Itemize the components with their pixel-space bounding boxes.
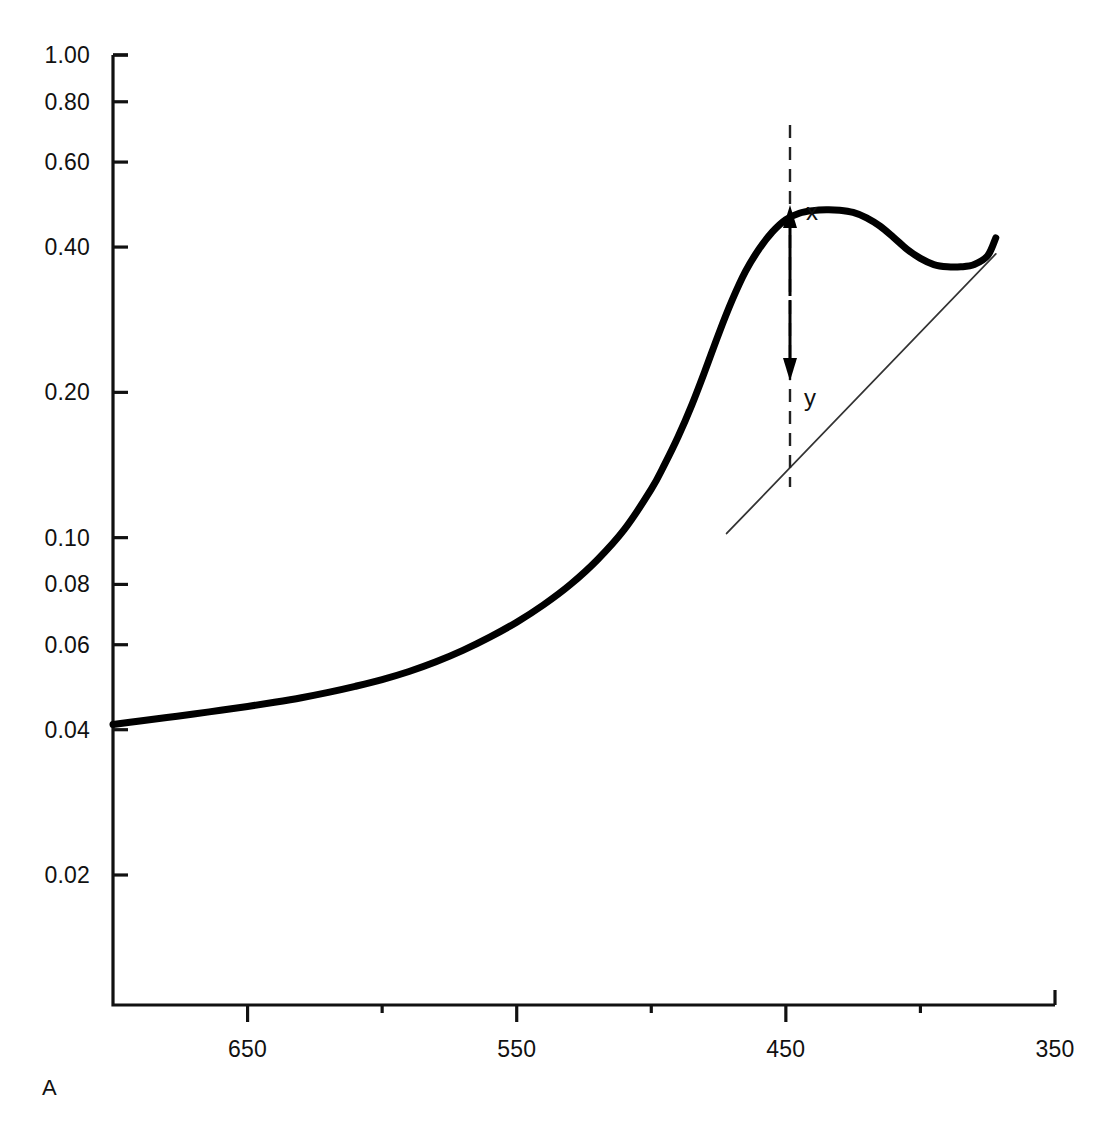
y-tick-label: 0.40: [0, 234, 90, 261]
baseline-point-label: y: [804, 384, 816, 412]
y-tick-label: 0.02: [0, 862, 90, 889]
y-tick-label: 0.04: [0, 716, 90, 743]
axes-group: [113, 55, 1055, 1022]
baseline-arrow-head: [783, 358, 797, 381]
y-tick-label: 0.10: [0, 524, 90, 551]
y-axis-ticks: [113, 55, 128, 875]
absorbance-spectrum-figure: 1.000.800.600.400.200.100.080.060.040.02…: [0, 0, 1118, 1123]
x-tick-label: 450: [741, 1036, 831, 1063]
x-tick-label: 550: [472, 1036, 562, 1063]
axis-lines: [113, 55, 1055, 1005]
y-tick-label: 0.08: [0, 571, 90, 598]
y-tick-label: 0.20: [0, 379, 90, 406]
y-tick-label: 0.06: [0, 631, 90, 658]
absorbance-curve: [113, 210, 996, 725]
x-tick-label: 650: [203, 1036, 293, 1063]
y-tick-label: 1.00: [0, 42, 90, 69]
panel-label: A: [42, 1075, 57, 1101]
x-axis-ticks: [248, 1005, 921, 1022]
peak-height-label: x: [806, 198, 818, 226]
y-tick-label: 0.60: [0, 149, 90, 176]
baseline-tangent-line: [727, 254, 996, 534]
plot-canvas: [0, 0, 1118, 1123]
y-tick-label: 0.80: [0, 88, 90, 115]
x-tick-label: 350: [1010, 1036, 1100, 1063]
